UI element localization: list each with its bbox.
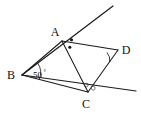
angle-mark-D-arc	[107, 52, 110, 62]
vertex-label-C: C	[82, 97, 90, 111]
segment-BC	[22, 75, 88, 92]
vertex-label-D: D	[122, 43, 131, 57]
angle-mark-A-dot-upper	[70, 38, 73, 41]
angle-mark-C-circle-right	[91, 86, 95, 90]
degree-symbol-B: °	[44, 69, 47, 75]
geometry-figure: A B C D 50 °	[0, 0, 141, 120]
vertex-label-A: A	[51, 25, 60, 39]
segment-AD	[62, 41, 118, 50]
angle-measure-B: 50	[33, 70, 43, 80]
segment-BA	[22, 41, 62, 75]
geometry-diagram-canvas: A B C D 50 °	[0, 0, 141, 120]
ray-BA-extended	[22, 6, 113, 75]
vertex-label-B: B	[7, 68, 15, 82]
segment-DC	[88, 50, 118, 92]
angle-mark-A-dot-lower	[68, 46, 71, 49]
